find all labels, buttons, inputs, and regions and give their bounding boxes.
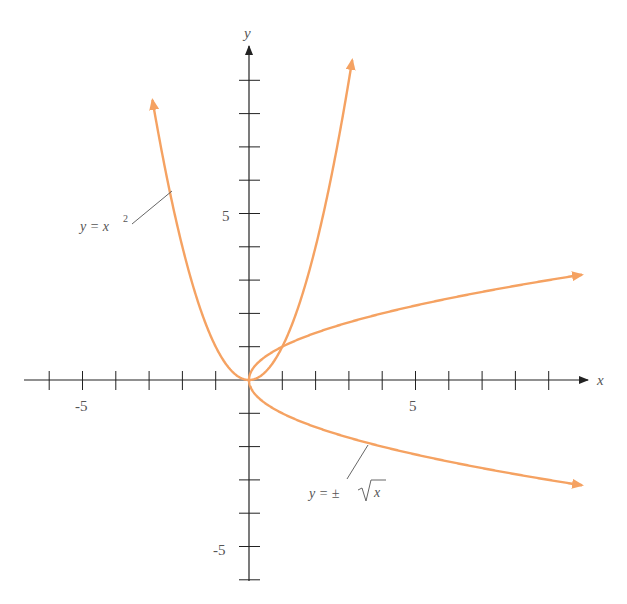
sqrt-label: y = ± (307, 486, 340, 501)
parabola-label-exponent: 2 (123, 213, 128, 224)
parabola-annotation: y = x 2 (78, 191, 172, 234)
parabola-left-branch (152, 100, 249, 380)
sqrt-upper-branch (249, 275, 582, 380)
y-tick-label-5: 5 (222, 208, 230, 224)
x-axis-label: x (596, 372, 604, 388)
parabola-label: y = x (78, 219, 110, 234)
plot-area: x y 5 -5 5 -5 y = x 2 y = ± x (0, 0, 627, 604)
y-tick-label-neg5: -5 (213, 542, 226, 558)
sqrt-lower-branch (249, 380, 582, 485)
curves (152, 60, 582, 485)
x-tick-label-neg5: -5 (75, 398, 88, 414)
sqrt-label-radicand: x (373, 485, 381, 500)
y-axis-label: y (242, 25, 251, 41)
x-tick-label-5: 5 (409, 398, 417, 414)
radical-sign-icon (358, 480, 386, 501)
axes (24, 46, 588, 581)
parabola-right-branch (249, 60, 352, 380)
sqrt-annotation: y = ± x (307, 445, 386, 501)
chart: x y 5 -5 5 -5 y = x 2 y = ± x (0, 0, 627, 604)
